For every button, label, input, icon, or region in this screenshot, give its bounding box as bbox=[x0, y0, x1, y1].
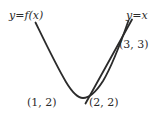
point-label-3-3: (3, 3) bbox=[119, 39, 149, 51]
point-label-2-2: (2, 2) bbox=[89, 97, 119, 109]
line-label-yx: y=x bbox=[126, 10, 148, 22]
point-label-1-2: (1, 2) bbox=[27, 97, 57, 109]
math-figure: y=f(x) y=x (3, 3) (1, 2) (2, 2) bbox=[0, 0, 165, 120]
curve-label-fx: y=f(x) bbox=[9, 10, 43, 22]
